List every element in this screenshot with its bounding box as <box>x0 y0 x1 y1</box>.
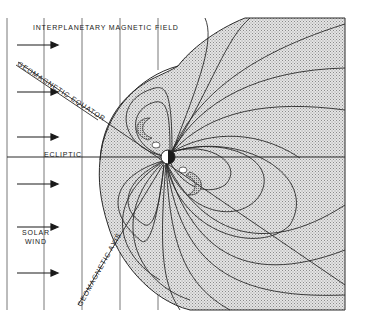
label-ecliptic: ECLIPTIC <box>44 151 82 158</box>
magnetosphere <box>99 18 345 310</box>
label-solar-wind: SOLAR WIND <box>22 228 50 246</box>
label-solar: SOLAR <box>22 228 50 237</box>
label-interplanetary-magnetic-field: INTERPLANETARY MAGNETIC FIELD <box>33 24 179 31</box>
earth <box>161 150 175 164</box>
label-wind: WIND <box>22 237 50 246</box>
magnetosphere-diagram <box>0 0 383 321</box>
